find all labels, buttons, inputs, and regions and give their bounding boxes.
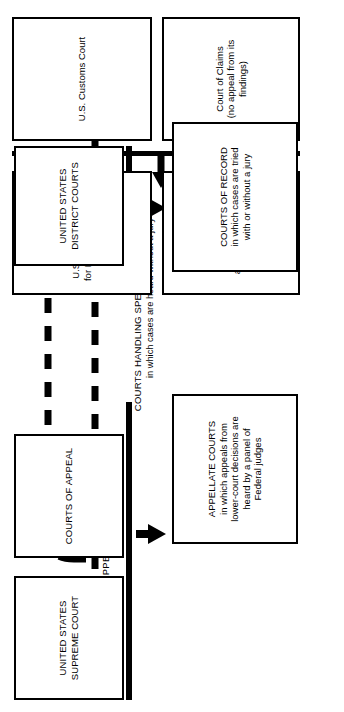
box-united-states-supreme-court[interactable]: UNITED STATESSUPREME COURT	[14, 576, 124, 700]
appellate-group-underline-bar	[126, 402, 132, 700]
box-appellate-courts-description-label: APPELLATE COURTSin which appeals fromlow…	[206, 412, 264, 526]
box-appellate-courts-description[interactable]: APPELLATE COURTSin which appeals fromlow…	[172, 394, 298, 544]
box-us-customs-court-label: U.S. Customs Court	[76, 33, 88, 125]
box-us-customs-court[interactable]: U.S. Customs Court	[12, 17, 152, 141]
box-court-of-claims-label: Court of Claims(no appeal from its findi…	[214, 19, 249, 139]
box-courts-of-appeal-label: COURTS OF APPEAL	[63, 444, 75, 548]
arrowhead-to-appellate-courts	[136, 524, 166, 544]
box-courts-of-appeal[interactable]: COURTS OF APPEAL	[14, 434, 124, 558]
box-united-states-district-courts[interactable]: UNITED STATESDISTRICT COURTS	[14, 146, 124, 266]
box-united-states-supreme-court-label: UNITED STATESSUPREME COURT	[57, 592, 80, 685]
diagram-stage: COURTS HANDLING SPECIAL TYPES OF CASES i…	[0, 0, 344, 712]
box-courts-of-record-description[interactable]: COURTS OF RECORDin which cases are tried…	[172, 122, 298, 272]
federal-court-system-diagram: COURTS HANDLING SPECIAL TYPES OF CASES i…	[0, 0, 344, 712]
box-courts-of-record-description-label: COURTS OF RECORDin which cases are tried…	[218, 143, 253, 251]
box-united-states-district-courts-label: UNITED STATESDISTRICT COURTS	[57, 158, 80, 254]
